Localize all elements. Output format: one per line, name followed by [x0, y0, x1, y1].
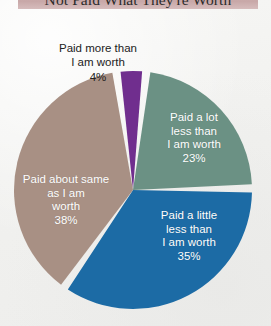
pie-slice-label-paid-a-little-less: Paid a little less than I am worth 35% — [140, 196, 238, 276]
page-root: Not Paid What They're Worth Paid a lot l… — [0, 0, 271, 326]
pie-slice-percent: 4% — [33, 70, 163, 85]
pie-slice-percent: 35% — [140, 250, 238, 263]
pie-slice-label-text: Paid about same as I am worth — [23, 173, 109, 212]
pie-slice-label-paid-more-than: Paid more than I am worth 4% — [33, 26, 163, 99]
pie-slice-label-text: Paid a little less than I am worth — [161, 209, 217, 248]
pie-slice-label-text: Paid more than I am worth — [59, 42, 137, 69]
pie-slice-percent: 23% — [146, 152, 242, 165]
pie-slice-label-paid-about-same: Paid about same as I am worth 38% — [12, 160, 120, 240]
pie-slice-label-paid-a-lot-less: Paid a lot less than I am worth 23% — [146, 98, 242, 178]
pie-slice-percent: 38% — [12, 214, 120, 227]
pie-slice-label-text: Paid a lot less than I am worth — [167, 111, 221, 150]
